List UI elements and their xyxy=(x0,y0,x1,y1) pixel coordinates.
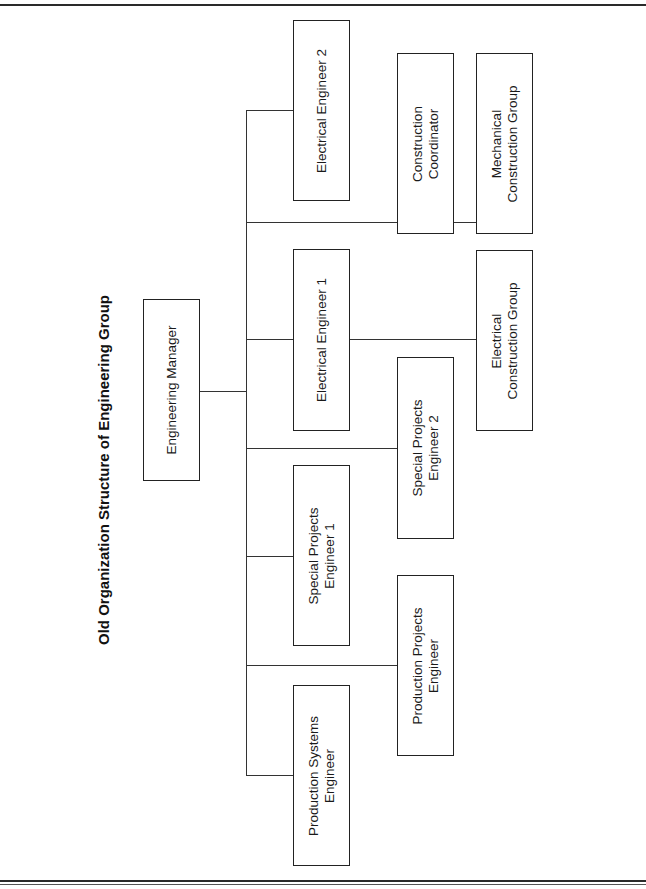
node-special-projects-engineer-1: Special Projects Engineer 1 xyxy=(293,465,350,646)
connector-manager-to-spine xyxy=(200,391,246,392)
node-label-line2: Coordinator xyxy=(426,106,442,182)
node-label: Electrical Engineer 2 xyxy=(314,49,330,173)
node-label-line2: Engineer 1 xyxy=(322,507,338,604)
node-special-projects-engineer-2: Special Projects Engineer 2 xyxy=(397,357,454,539)
node-label: Special Projects Engineer 2 xyxy=(410,400,442,497)
node-electrical-construction-group: Electrical Construction Group xyxy=(476,250,533,431)
connector-special-projects-engineer-1 xyxy=(246,556,293,557)
connector-special-projects-engineer-2 xyxy=(246,448,397,449)
node-label-line2: Construction Group xyxy=(505,85,521,202)
node-label-line2: Engineer xyxy=(426,607,442,724)
node-label: Electrical Engineer 1 xyxy=(314,278,330,402)
connector-coordinator-to-mechanical-construction xyxy=(453,222,476,223)
node-label-line1: Electrical xyxy=(489,282,505,399)
bottom-rule xyxy=(0,880,646,882)
connector-production-systems-engineer xyxy=(246,775,293,776)
bottom-rule-thin xyxy=(0,884,646,885)
chart-title: Old Organization Structure of Engineerin… xyxy=(95,295,112,645)
connector-construction-coordinator xyxy=(246,222,397,223)
node-label-line2: Engineer xyxy=(322,715,338,835)
node-label-line1: Mechanical xyxy=(489,85,505,202)
connector-spine xyxy=(246,110,247,776)
node-label-line1: Production Projects xyxy=(410,607,426,724)
node-construction-coordinator: Construction Coordinator xyxy=(397,53,454,234)
connector-electrical-engineer-1 xyxy=(246,339,293,340)
node-label: Special Projects Engineer 1 xyxy=(306,507,338,604)
node-label-line1: Construction xyxy=(410,106,426,182)
top-rule xyxy=(0,4,646,6)
node-production-systems-engineer: Production Systems Engineer xyxy=(293,685,350,866)
node-label-line1: Special Projects xyxy=(306,507,322,604)
node-label: Construction Coordinator xyxy=(410,106,442,182)
connector-ee1-to-electrical-construction xyxy=(350,339,476,340)
node-label: Electrical Construction Group xyxy=(489,282,521,399)
node-label: Production Systems Engineer xyxy=(306,715,338,835)
node-label: Engineering Manager xyxy=(164,325,180,454)
node-label: Mechanical Construction Group xyxy=(489,85,521,202)
node-label-line2: Construction Group xyxy=(505,282,521,399)
connector-production-projects-engineer xyxy=(246,665,397,666)
connector-electrical-engineer-2 xyxy=(246,110,293,111)
node-label-line1: Special Projects xyxy=(410,400,426,497)
node-label: Production Projects Engineer xyxy=(410,607,442,724)
node-electrical-engineer-2: Electrical Engineer 2 xyxy=(293,20,350,201)
node-production-projects-engineer: Production Projects Engineer xyxy=(397,575,454,756)
node-mechanical-construction-group: Mechanical Construction Group xyxy=(476,53,533,234)
node-engineering-manager: Engineering Manager xyxy=(143,299,200,481)
node-label-line2: Engineer 2 xyxy=(426,400,442,497)
node-label-line1: Production Systems xyxy=(306,715,322,835)
node-electrical-engineer-1: Electrical Engineer 1 xyxy=(293,249,350,431)
